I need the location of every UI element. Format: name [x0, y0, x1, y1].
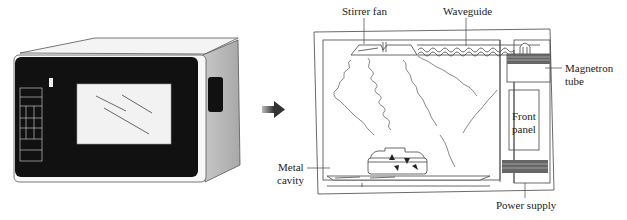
label-metal-cavity-line2: cavity: [277, 174, 304, 186]
label-metal-cavity-line1: Metal: [278, 161, 304, 173]
turntable-tray: [327, 176, 490, 187]
microwave-rays: [334, 56, 497, 167]
arrow-right-icon: [262, 101, 285, 118]
indicator-light: [49, 78, 53, 87]
label-stirrer-fan: Stirrer fan: [342, 5, 387, 17]
label-front-panel-line1: Front: [512, 110, 536, 122]
label-power-supply: Power supply: [496, 199, 556, 211]
stirrer-fan: [351, 42, 417, 55]
microwave-exterior: [14, 38, 240, 182]
door-window: [77, 84, 171, 144]
label-magnetron-line1: Magnetron: [565, 62, 613, 74]
label-front-panel-line2: panel: [512, 123, 536, 135]
side-vent: [208, 77, 223, 112]
magnetron-tube: [507, 54, 550, 82]
power-supply: [502, 160, 548, 173]
label-waveguide: Waveguide: [443, 5, 492, 17]
label-magnetron-line2: tube: [565, 75, 584, 87]
